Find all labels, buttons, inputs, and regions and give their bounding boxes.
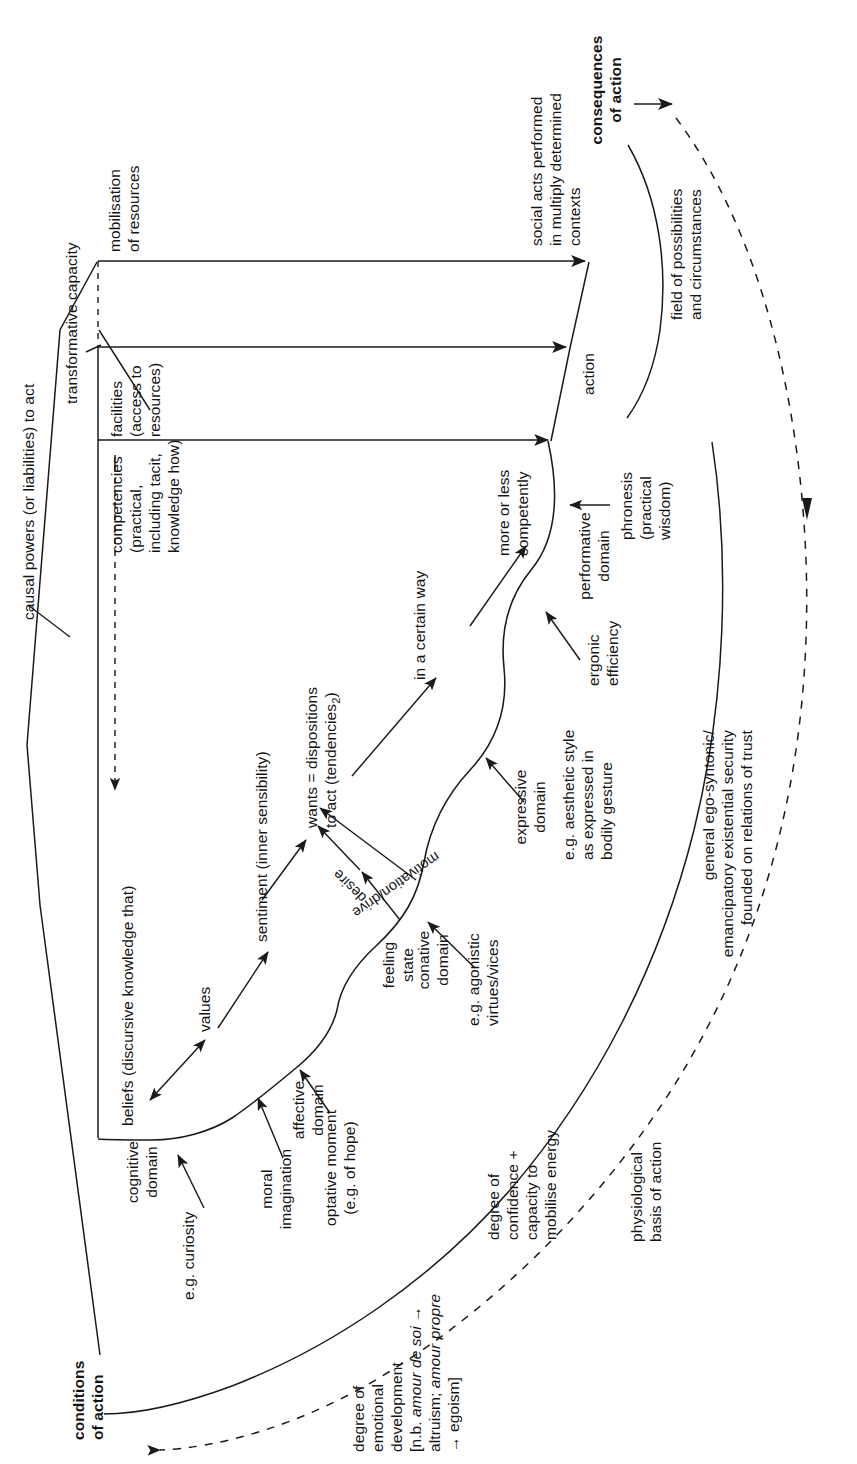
deg-emo-l6: → egoism] xyxy=(445,1377,462,1452)
output-label-more-or-less-competently: more or lesscompetently xyxy=(495,396,533,556)
deg-emo-l2: emotional xyxy=(369,1384,386,1452)
diagram-canvas: causal powers (or liabilities) to act tr… xyxy=(0,0,857,1464)
domain-example-cognitive: e.g. curiosity xyxy=(180,1212,199,1300)
node-label-beliefs: beliefs (discursive knowledge that) xyxy=(119,886,138,1126)
deg-emo-l5-italic: amour propre xyxy=(426,1294,443,1388)
domain-example-conative: e.g. agonisticvirtues/vices xyxy=(465,876,503,1026)
node-label-wants: wants = dispositionsto act (tendencies2) xyxy=(303,618,344,828)
bracket-label-causal-powers: causal powers (or liabilities) to act xyxy=(20,384,39,620)
heading-conditions-of-action: conditionsof action xyxy=(70,1300,108,1440)
domain-example-performative: phronesis(practicalwisdom) xyxy=(618,390,675,540)
node-label-wants-subscript: 2 xyxy=(330,698,342,704)
output-label-social-acts: social acts performedin multiply determi… xyxy=(528,16,585,246)
domain-label-expressive: expressivedomain xyxy=(512,752,550,862)
annotation-physiological-basis: physiologicalbasis of action xyxy=(628,1072,666,1242)
node-label-sentiment: sentiment (inner sensibility) xyxy=(253,751,272,942)
output-label-action: action xyxy=(580,353,599,395)
deg-emo-l3: development xyxy=(388,1362,405,1452)
deg-emo-l4-post: → xyxy=(407,1306,424,1326)
annotation-ergonic-efficiency: ergonicefficiency xyxy=(585,566,623,686)
deg-emo-l1: degree of xyxy=(350,1386,367,1452)
node-label-wants-l2-pre: to act (tendencies xyxy=(322,704,339,828)
deg-emo-l5-pre: altruism; xyxy=(426,1388,443,1452)
annotation-degree-of-emotional-development: degree ofemotionaldevelopment[n.b. amour… xyxy=(350,1202,463,1452)
deg-emo-l4-pre: [n.b. xyxy=(407,1417,424,1452)
channel-label-competencies: competencies(practical,including tacit,k… xyxy=(108,323,184,553)
bracket-label-transformative-capacity: transformative capacity xyxy=(63,242,82,404)
domain-example-expressive: e.g. aesthetic styleas expressed inbodil… xyxy=(560,670,617,860)
node-label-wants-l1: wants = dispositions xyxy=(303,687,320,828)
annotation-general-ego-syntonic: general ego-syntonic/emancipatory existe… xyxy=(700,730,757,1060)
node-label-feeling-state: feelingstate xyxy=(380,920,418,1010)
heading-consequences-of-action: consequencesof action xyxy=(588,20,626,160)
annotation-moral-imagination: moralimagination xyxy=(258,1129,296,1249)
node-label-values: values xyxy=(196,987,215,1032)
output-label-in-a-certain-way: in a certain way xyxy=(411,571,430,680)
annotation-degree-of-confidence: degree ofconfidence +capacity tomobilise… xyxy=(485,1040,561,1240)
node-label-wants-l2-post: ) xyxy=(322,692,339,697)
domain-label-conative: conativedomain xyxy=(415,910,453,1010)
bracket-label-field-of-possibilities: field of possibilitiesand circumstances xyxy=(668,150,706,320)
deg-emo-l4-italic: amour de soi xyxy=(407,1326,424,1417)
domain-label-cognitive: cognitivedomain xyxy=(124,1122,162,1222)
channel-label-mobilisation: mobilisation of resources xyxy=(106,52,144,252)
